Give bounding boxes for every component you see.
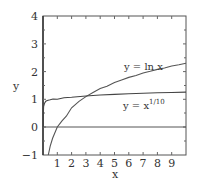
svg-text:3: 3	[82, 157, 89, 170]
svg-text:4: 4	[97, 157, 104, 170]
root-curve-label: y = x1/10	[122, 98, 165, 111]
x-ticks	[57, 16, 171, 155]
svg-text:−1: −1	[22, 149, 38, 162]
svg-text:1: 1	[31, 93, 38, 106]
svg-text:2: 2	[68, 157, 75, 170]
svg-text:3: 3	[31, 38, 38, 51]
ln-curve-label: y = ln x	[123, 61, 163, 72]
plot-frame	[43, 16, 186, 155]
svg-text:7: 7	[140, 157, 147, 170]
svg-text:1: 1	[54, 157, 61, 170]
svg-text:0: 0	[31, 121, 38, 134]
y-axis-label: y	[12, 80, 20, 93]
y-tick-labels: −1 0 1 2 3 4	[22, 10, 38, 162]
y-ticks	[43, 30, 186, 141]
svg-text:2: 2	[31, 66, 38, 79]
svg-text:4: 4	[31, 10, 38, 23]
x-axis-label: x	[112, 168, 119, 180]
svg-text:9: 9	[168, 157, 175, 170]
svg-text:8: 8	[154, 157, 161, 170]
chart: y = ln x y = x1/10 1 2 3 4 5 6 7 8 9 −1 …	[0, 0, 201, 180]
svg-text:6: 6	[125, 157, 132, 170]
ln-curve	[48, 63, 186, 155]
